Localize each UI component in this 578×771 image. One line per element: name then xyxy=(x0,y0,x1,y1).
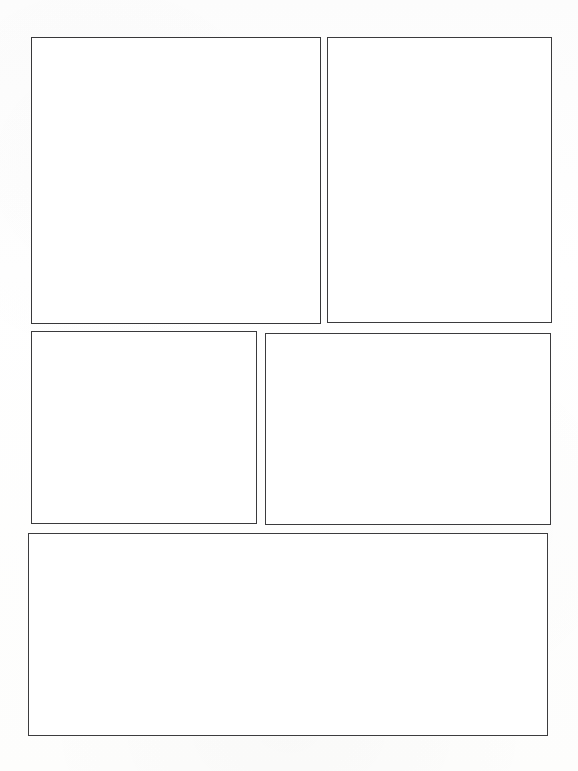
comic-page xyxy=(0,0,578,771)
comic-panel-2[interactable] xyxy=(327,37,552,323)
comic-panel-2-content[interactable] xyxy=(328,38,551,322)
comic-panel-3-content[interactable] xyxy=(32,332,256,523)
comic-panel-5[interactable] xyxy=(28,533,548,736)
comic-panel-4-content[interactable] xyxy=(266,334,550,524)
comic-panel-1[interactable] xyxy=(31,37,321,324)
comic-panel-1-content[interactable] xyxy=(32,38,320,323)
comic-panel-5-content[interactable] xyxy=(29,534,547,735)
comic-panel-3[interactable] xyxy=(31,331,257,524)
comic-panel-4[interactable] xyxy=(265,333,551,525)
